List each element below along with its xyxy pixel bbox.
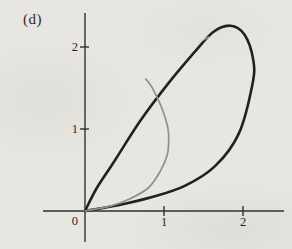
origin-label: 0 (72, 214, 78, 228)
outer-loop-curve (85, 26, 254, 211)
figure-panel: 12120 (d) (0, 0, 292, 249)
x-tick-label-1: 1 (161, 215, 167, 229)
x-tick-label-2: 2 (240, 215, 246, 229)
y-tick-label-2: 2 (72, 40, 78, 54)
y-tick-label-1: 1 (72, 122, 78, 136)
panel-label: (d) (23, 11, 42, 28)
plot-svg: 12120 (0, 0, 292, 249)
